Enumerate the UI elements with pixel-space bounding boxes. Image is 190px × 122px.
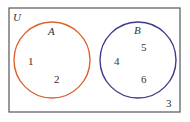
set-b-label: B — [134, 24, 141, 36]
set-b-element: 6 — [141, 73, 147, 85]
set-b-element: 5 — [141, 41, 147, 53]
set-a-element: 2 — [54, 73, 60, 85]
set-a-label: A — [47, 25, 55, 37]
set-a-element: 1 — [28, 55, 34, 67]
universe-element: 3 — [166, 97, 172, 109]
venn-diagram: U A 1 2 B 5 4 6 3 — [0, 0, 190, 122]
universe-label: U — [13, 11, 22, 23]
set-b-element: 4 — [114, 55, 120, 67]
universe-rectangle — [9, 8, 180, 112]
